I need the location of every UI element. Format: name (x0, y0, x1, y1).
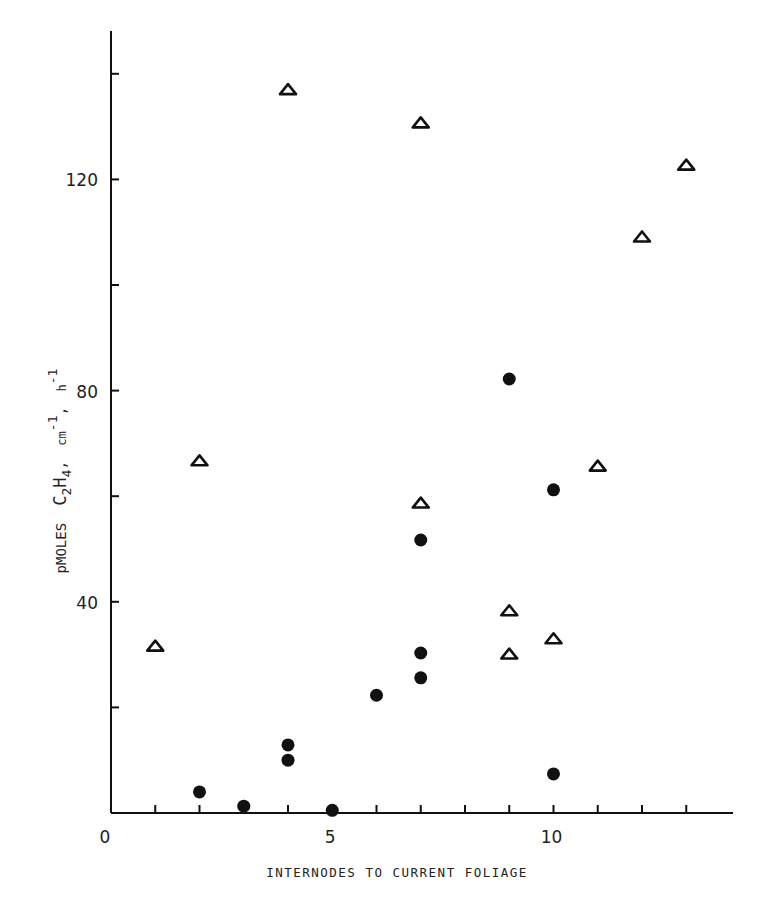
y-tick-labels: 4080120 (66, 170, 98, 612)
y-axis-title: pMOLES C2H4, cm-1, h-1 (45, 369, 74, 574)
x-tick-label: 10 (541, 827, 563, 847)
open-triangle-marker (634, 231, 650, 241)
y-tick-label: 80 (76, 382, 98, 402)
data-points (147, 84, 694, 817)
open-triangle-marker (192, 455, 208, 465)
open-triangle-marker (413, 117, 429, 127)
filled-circle-marker (547, 483, 560, 496)
filled-circle-marker (193, 785, 206, 798)
filled-circle-marker (370, 689, 383, 702)
scatter-chart: 0510 4080120 INTERNODES TO CURRENT FOLIA… (0, 0, 763, 911)
y-axis-title-units: pMOLES (53, 523, 69, 574)
filled-circle-marker (503, 372, 516, 385)
filled-circle-marker (547, 767, 560, 780)
open-triangle-marker (147, 641, 163, 651)
y-tick-label: 120 (66, 170, 98, 190)
open-triangle-marker (590, 461, 606, 471)
x-tick-label: 5 (325, 827, 336, 847)
x-axis-title: INTERNODES TO CURRENT FOLIAGE (266, 865, 528, 880)
open-triangle-marker (501, 605, 517, 615)
x-ticks (155, 805, 686, 813)
x-tick-label: 0 (100, 827, 111, 847)
filled-circle-marker (237, 800, 250, 813)
filled-circle-marker (414, 671, 427, 684)
filled-circle-marker (326, 804, 339, 817)
filled-circle-marker (414, 534, 427, 547)
x-tick-labels: 0510 (100, 827, 563, 847)
y-ticks (111, 74, 119, 708)
svg-text:pMOLES C2H4, cm-1,: pMOLES C2H4, cm-1, h-1 (45, 369, 74, 574)
open-triangle-marker (546, 633, 562, 643)
open-triangle-marker (501, 649, 517, 659)
y-tick-label: 40 (76, 593, 98, 613)
filled-circle-marker (414, 647, 427, 660)
axes: 0510 4080120 (66, 31, 733, 847)
open-triangle-marker (280, 84, 296, 94)
open-triangle-marker (413, 498, 429, 508)
open-triangle-marker (678, 160, 694, 170)
filled-circle-marker (282, 754, 295, 767)
filled-circle-marker (282, 738, 295, 751)
